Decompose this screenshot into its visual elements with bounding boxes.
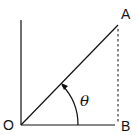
diagonal-line-oa	[21, 25, 118, 125]
angle-arc	[62, 85, 78, 125]
label-o: O	[3, 117, 14, 133]
arrowhead-icon	[61, 83, 68, 90]
angle-diagram: O A B θ	[0, 0, 138, 135]
label-b: B	[121, 118, 130, 134]
label-a: A	[121, 6, 131, 22]
label-theta: θ	[80, 92, 89, 110]
